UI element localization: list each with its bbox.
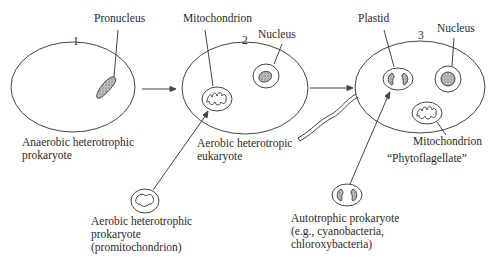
label-nucleus-2: Nucleus — [258, 28, 296, 41]
label-donor-autotroph: Autotrophic prokaryote (e.g., cyanobacte… — [291, 212, 399, 251]
pronucleus — [97, 77, 116, 98]
mitochondrion-2 — [202, 87, 232, 111]
cyanobacterium — [332, 184, 362, 206]
cell-2-membrane — [182, 42, 308, 134]
stage-number-3: 3 — [418, 29, 424, 42]
label-plastid: Plastid — [358, 12, 389, 25]
label-mitochondrion-3: Mitochondrion — [413, 135, 482, 148]
label-stage-1: Anaerobic heterotrophic prokaryote — [22, 136, 134, 162]
promitochondrion — [131, 189, 159, 213]
stage-number-1: 1 — [73, 35, 79, 48]
label-mitochondrion-2: Mitochondrion — [183, 12, 252, 25]
label-pronucleus: Pronucleus — [94, 12, 145, 25]
cell-3-membrane — [355, 41, 485, 133]
mitochondrion-3 — [412, 102, 442, 124]
label-stage-3: “Phytoflagellate” — [387, 152, 467, 165]
cell-1-membrane — [11, 42, 135, 132]
label-stage-2: Aerobic heterotropic eukaryote — [197, 137, 292, 163]
stage-number-2: 2 — [242, 34, 248, 47]
label-donor-promitochondrion: Aerobic heterotrophic prokaryote (promit… — [91, 215, 192, 254]
label-nucleus-3: Nucleus — [437, 22, 475, 35]
plastid-3 — [383, 68, 413, 90]
